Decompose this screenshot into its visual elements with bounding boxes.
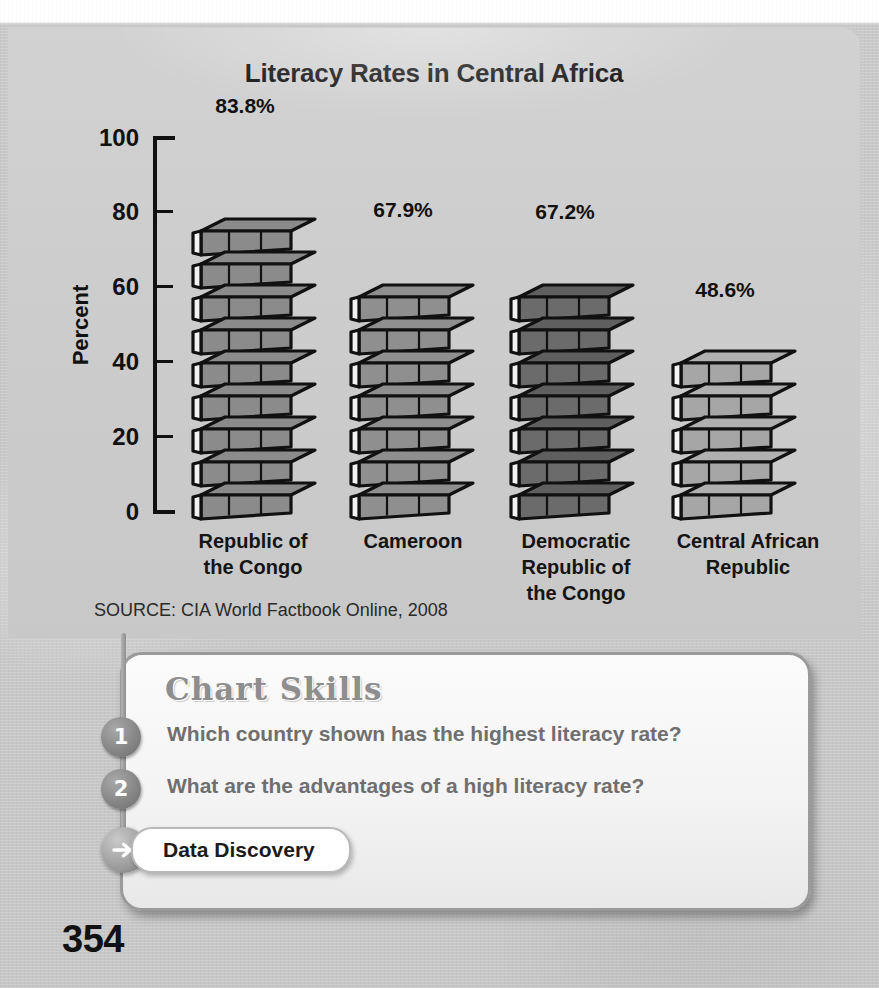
chart-skills-heading: Chart Skills: [165, 671, 382, 707]
x-category-label-1: Republic of the Congo: [168, 528, 338, 580]
x-category-label-3: Democratic Republic of the Congo: [486, 528, 666, 606]
y-tick-20: [153, 435, 173, 438]
question-number-badge-2: 2: [101, 769, 141, 809]
book: [191, 382, 299, 416]
bar-value-label-3: 67.2%: [535, 200, 595, 224]
book: [349, 448, 457, 482]
cat-3-line-3: the Congo: [486, 580, 666, 606]
cat-1-line-1: Republic of: [168, 528, 338, 554]
y-tick-label-80: 80: [112, 198, 139, 226]
book: [349, 316, 457, 350]
book: [509, 316, 617, 350]
book: [671, 481, 779, 515]
y-tick-label-40: 40: [112, 348, 139, 376]
bar-value-label-4: 48.6%: [695, 278, 755, 302]
chart-title: Literacy Rates in Central Africa: [8, 58, 860, 89]
book: [509, 349, 617, 383]
cat-1-line-2: the Congo: [168, 554, 338, 580]
book: [191, 250, 299, 284]
book: [191, 217, 299, 251]
page-number: 354: [62, 918, 124, 961]
book: [671, 415, 779, 449]
y-tick-40: [153, 360, 173, 363]
book-stack-bar-2: [349, 283, 457, 514]
question-number-badge-1: 1: [101, 717, 141, 757]
book-stack-bar-1: [191, 217, 299, 514]
book: [349, 415, 457, 449]
x-category-label-2: Cameroon: [328, 528, 498, 554]
book: [671, 349, 779, 383]
book: [191, 415, 299, 449]
data-discovery-button[interactable]: Data Discovery: [131, 827, 351, 873]
book: [349, 382, 457, 416]
textbook-page: Literacy Rates in Central Africa 100 80 …: [0, 0, 879, 988]
book: [509, 415, 617, 449]
book: [191, 316, 299, 350]
book-stack-bar-3: [509, 283, 617, 514]
book: [191, 448, 299, 482]
y-tick-label-0: 0: [126, 498, 139, 526]
y-tick-80: [153, 210, 173, 213]
question-text-1: Which country shown has the highest lite…: [167, 722, 682, 746]
chart-panel: Literacy Rates in Central Africa 100 80 …: [8, 28, 860, 638]
bar-value-label-1: 83.8%: [215, 94, 275, 118]
y-tick-label-20: 20: [112, 423, 139, 451]
chart-source-note: SOURCE: CIA World Factbook Online, 2008: [94, 600, 448, 621]
chart-skills-panel: Chart Skills 1 Which country shown has t…: [120, 652, 811, 911]
chart-skills-question-1[interactable]: 1 Which country shown has the highest li…: [123, 717, 808, 757]
cat-2-line-1: Cameroon: [328, 528, 498, 554]
cat-3-line-1: Democratic: [486, 528, 666, 554]
book: [191, 349, 299, 383]
book: [509, 448, 617, 482]
cat-4-line-2: Republic: [653, 554, 843, 580]
bar-value-label-2: 67.9%: [373, 198, 433, 222]
book: [671, 448, 779, 482]
book: [349, 349, 457, 383]
book-stack-bar-4: [671, 349, 779, 514]
book: [191, 481, 299, 515]
y-tick-60: [153, 285, 173, 288]
cat-4-line-1: Central African: [653, 528, 843, 554]
y-axis-label: Percent: [68, 285, 94, 366]
book: [509, 382, 617, 416]
chart-skills-question-2[interactable]: 2 What are the advantages of a high lite…: [123, 769, 808, 809]
y-tick-label-60: 60: [112, 273, 139, 301]
data-discovery-row[interactable]: Data Discovery: [101, 827, 351, 873]
plot-area: 100 80 60 40 20 0 Percent 83.8% 67.9% 67…: [153, 136, 813, 514]
book: [349, 283, 457, 317]
book: [349, 481, 457, 515]
y-tick-label-100: 100: [99, 124, 139, 152]
book: [509, 283, 617, 317]
y-axis-bottom-cap: [153, 510, 175, 514]
y-axis-top-cap: [153, 136, 175, 140]
y-axis-line: [153, 136, 157, 514]
book: [671, 382, 779, 416]
book: [191, 283, 299, 317]
cat-3-line-2: Republic of: [486, 554, 666, 580]
book: [509, 481, 617, 515]
question-text-2: What are the advantages of a high litera…: [167, 774, 644, 798]
x-category-label-4: Central African Republic: [653, 528, 843, 580]
